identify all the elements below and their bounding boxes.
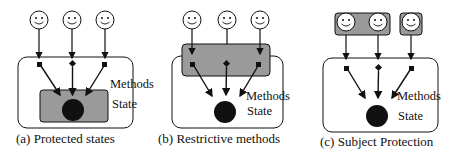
caption-a: (a) Protected states <box>16 131 115 146</box>
state-label: State <box>247 104 272 118</box>
method-icon <box>256 62 261 67</box>
subject-icon <box>183 11 201 29</box>
panel-c: Methods State (c) Subject Protection <box>320 13 441 149</box>
state-icon <box>62 99 84 121</box>
subject-icon <box>251 11 269 29</box>
method-icon <box>102 62 107 67</box>
subject-icon <box>337 13 355 31</box>
subject-icon <box>369 13 387 31</box>
state-icon <box>366 105 388 127</box>
subject-icon <box>30 11 48 29</box>
caption-c: (c) Subject Protection <box>320 134 434 149</box>
methods-label: Methods <box>110 77 154 91</box>
subject-icon <box>402 13 420 31</box>
subject-icon <box>96 11 114 29</box>
methods-label: Methods <box>397 89 441 103</box>
state-label: State <box>112 97 137 111</box>
panel-a: Methods State (a) Protected states <box>16 11 154 146</box>
caption-b: (b) Restrictive methods <box>158 131 280 146</box>
panel-b: Methods State (b) Restrictive methods <box>158 11 290 146</box>
methods-label: Methods <box>246 89 290 103</box>
state-icon <box>214 101 236 123</box>
subject-icon <box>218 11 236 29</box>
state-label: State <box>398 109 423 123</box>
subject-icon <box>63 11 81 29</box>
